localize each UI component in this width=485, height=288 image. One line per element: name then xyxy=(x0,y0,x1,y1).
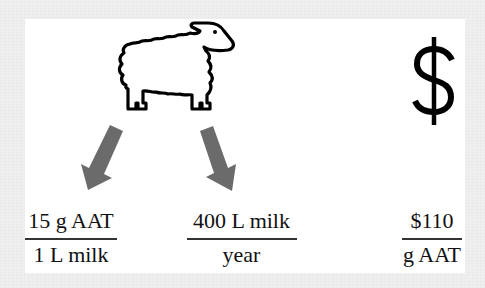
arrow-down-left-icon xyxy=(78,122,128,194)
fraction-aat-per-milk: 15 g AAT 1 L milk xyxy=(24,208,118,268)
fraction-price-per-aat: $110 g AAT xyxy=(401,208,463,268)
fraction-numerator: $110 xyxy=(401,208,463,238)
dollar-sign-icon xyxy=(410,34,458,128)
fraction-denominator: year xyxy=(186,240,297,268)
fraction-numerator: 15 g AAT xyxy=(24,208,118,238)
fraction-milk-per-year: 400 L milk year xyxy=(186,208,297,268)
arrow-down-right-icon xyxy=(196,122,246,194)
fraction-numerator: 400 L milk xyxy=(186,208,297,238)
sheep-icon xyxy=(108,17,240,113)
fraction-denominator: 1 L milk xyxy=(24,240,118,268)
fraction-denominator: g AAT xyxy=(401,240,463,268)
